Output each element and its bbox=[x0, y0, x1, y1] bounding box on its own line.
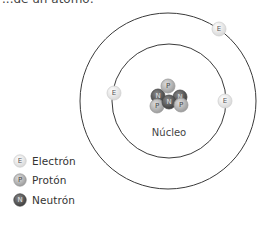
svg-text:E: E bbox=[18, 157, 22, 165]
electron-particle: E bbox=[107, 86, 121, 100]
legend-label: Electrón bbox=[32, 155, 76, 167]
legend-label: Neutrón bbox=[32, 194, 75, 206]
proton-letter: P bbox=[179, 101, 183, 109]
proton-particle: P bbox=[174, 98, 188, 112]
legend-item-proton: P Protón bbox=[13, 171, 76, 191]
nucleus: NPNPNP bbox=[150, 79, 188, 113]
neutron-letter: N bbox=[166, 98, 171, 106]
electron-icon: E bbox=[13, 154, 27, 168]
proton-icon: P bbox=[13, 173, 27, 187]
legend-item-electron: E Electrón bbox=[13, 151, 76, 171]
legend: E Electrón P Protón N Neutrón bbox=[13, 151, 76, 210]
electron-particle: E bbox=[218, 94, 232, 108]
legend-label: Protón bbox=[32, 174, 66, 186]
nucleus-label: Núcleo bbox=[152, 127, 186, 138]
proton-letter: P bbox=[166, 82, 170, 90]
electron-particle: E bbox=[212, 22, 226, 36]
svg-text:N: N bbox=[17, 196, 22, 204]
electron-letter: E bbox=[217, 25, 221, 33]
electron-letter: E bbox=[223, 97, 227, 105]
electron-letter: E bbox=[112, 89, 116, 97]
svg-text:P: P bbox=[18, 177, 22, 185]
neutron-icon: N bbox=[13, 193, 27, 207]
legend-item-neutron: N Neutrón bbox=[13, 190, 76, 210]
proton-letter: P bbox=[155, 102, 159, 110]
proton-particle: P bbox=[161, 79, 175, 93]
